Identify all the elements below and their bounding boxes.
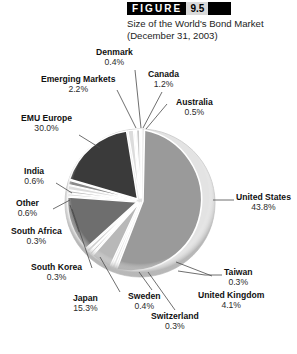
callout-united-kingdom-pct: 4.1% [198,300,264,310]
callout-emerging-markets-pct: 2.2% [41,84,116,94]
callout-japan-pct: 15.3% [73,303,98,313]
callout-india-name: India [24,166,44,176]
leader-canada [143,92,162,128]
callout-south-korea[interactable]: South Korea 0.3% [31,262,82,283]
callout-united-states-name: United States [236,192,291,202]
leader-emu-europe [79,135,100,148]
pie-chart: Denmark 0.4% Canada 1.2% Australia 0.5% … [0,0,297,354]
leader-denmark [135,70,141,128]
callout-united-states-pct: 43.8% [236,202,291,212]
callout-switzerland-name: Switzerland [151,311,199,321]
callout-emerging-markets-name: Emerging Markets [41,74,116,84]
callout-switzerland-pct: 0.3% [151,321,199,331]
callout-taiwan-name: Taiwan [224,267,253,277]
callout-south-africa[interactable]: South Africa 0.3% [11,226,62,247]
callout-taiwan[interactable]: Taiwan 0.3% [224,267,253,288]
callout-other[interactable]: Other 0.6% [16,198,39,219]
callout-sweden[interactable]: Sweden 0.4% [128,291,160,312]
callout-india-pct: 0.6% [24,176,44,186]
callout-canada-name: Canada [148,69,179,79]
leader-united-kingdom [176,262,212,276]
callout-south-korea-name: South Korea [31,262,82,272]
callout-south-korea-pct: 0.3% [31,272,82,282]
callout-australia[interactable]: Australia 0.5% [176,97,213,118]
callout-japan[interactable]: Japan 15.3% [73,293,98,314]
callout-emu-europe[interactable]: EMU Europe 30.0% [21,113,72,134]
callout-japan-name: Japan [73,293,98,303]
figure-container: FIGURE 9.5 Size of the World's Bond Mark… [0,0,297,354]
callout-denmark-name: Denmark [96,47,133,57]
callout-emerging-markets[interactable]: Emerging Markets 2.2% [41,74,116,95]
callout-australia-name: Australia [176,97,213,107]
callout-taiwan-pct: 0.3% [224,277,253,287]
callout-emu-europe-pct: 30.0% [21,123,72,133]
callout-denmark-pct: 0.4% [96,57,133,67]
callout-sweden-name: Sweden [128,291,160,301]
callout-canada-pct: 1.2% [148,79,179,89]
callout-united-states[interactable]: United States 43.8% [236,192,291,213]
callout-denmark[interactable]: Denmark 0.4% [96,47,133,68]
leader-emerging-markets [117,90,136,128]
callout-other-name: Other [16,198,39,208]
callout-switzerland[interactable]: Switzerland 0.3% [151,311,199,332]
callout-other-pct: 0.6% [16,208,39,218]
callout-emu-europe-name: EMU Europe [21,113,72,123]
callout-south-africa-pct: 0.3% [11,236,62,246]
callout-south-africa-name: South Africa [11,226,62,236]
callout-india[interactable]: India 0.6% [24,166,44,187]
callout-australia-pct: 0.5% [176,107,213,117]
callout-united-kingdom-name: United Kingdom [198,290,264,300]
callout-united-kingdom[interactable]: United Kingdom 4.1% [198,290,264,311]
callout-canada[interactable]: Canada 1.2% [148,69,179,90]
